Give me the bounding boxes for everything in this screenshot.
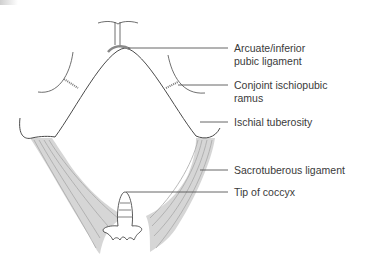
sacrotuberous-ligament-right <box>146 138 215 252</box>
ischial-curve-left-inner <box>38 52 73 92</box>
pelvic-outlet-diagram <box>0 0 370 272</box>
pubic-arch <box>55 48 196 137</box>
label-conjoint-ramus: Conjoint ischiopubic ramus <box>234 79 327 105</box>
label-arcuate-ligament: Arcuate/inferior pubic ligament <box>234 42 305 68</box>
label-tip-of-coccyx: Tip of coccyx <box>234 186 295 199</box>
leader-lines <box>126 48 228 192</box>
label-line: Tip of coccyx <box>234 186 295 199</box>
ischial-curve-right-outer <box>196 128 220 138</box>
ischial-curve-left-outer <box>20 118 55 138</box>
label-line: pubic ligament <box>234 55 305 68</box>
pubic-symphysis <box>98 21 138 52</box>
label-sacrotuberous-ligament: Sacrotuberous ligament <box>234 164 345 177</box>
label-ischial-tuberosity: Ischial tuberosity <box>234 116 312 129</box>
label-line: Ischial tuberosity <box>234 116 312 129</box>
suture-right <box>166 82 178 88</box>
suture-left <box>64 79 78 88</box>
label-line: ramus <box>234 92 327 105</box>
label-line: Arcuate/inferior <box>234 42 305 55</box>
ischial-curve-right-inner <box>168 55 205 93</box>
label-line: Conjoint ischiopubic <box>234 79 327 92</box>
label-line: Sacrotuberous ligament <box>234 164 345 177</box>
